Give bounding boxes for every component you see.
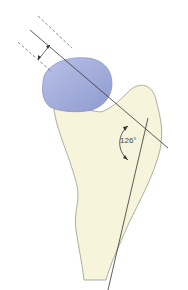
femur-illustration (0, 0, 188, 290)
femoral-head (42, 58, 112, 112)
femur-diagram: 126° (0, 0, 188, 290)
head-width-dashed-line-2 (38, 16, 72, 48)
angle-label: 126° (120, 136, 137, 145)
femur-bone (54, 85, 162, 280)
